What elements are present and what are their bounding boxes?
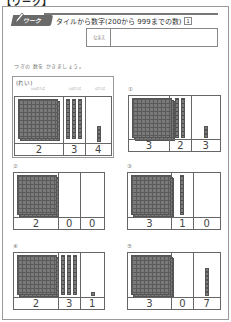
place-value-board: 231 [13, 252, 105, 310]
hundred-tile [18, 99, 58, 139]
ten-tile [181, 98, 185, 138]
one-tile [204, 126, 208, 130]
hundreds-digit[interactable]: 3 [129, 140, 170, 151]
ten-tile [175, 98, 179, 138]
problem-number: ① [128, 86, 133, 92]
hundreds-digit[interactable]: 2 [14, 218, 59, 229]
tile-columns [128, 253, 220, 298]
ones-column [81, 253, 104, 298]
answer-row: 307 [128, 297, 220, 309]
answer-row: 310 [128, 217, 220, 229]
place-value-board: 307 [127, 252, 221, 310]
tens-digit[interactable]: 1 [172, 218, 194, 229]
header-hundreds: 100のたば [13, 87, 63, 91]
header-tens: 10のたば [63, 87, 87, 91]
tens-digit[interactable]: 3 [59, 298, 81, 309]
one-tile [205, 280, 209, 284]
header-rule [44, 13, 218, 15]
title-text: タイルから数字(200から 999までの数) [56, 18, 181, 26]
ten-tile [72, 99, 76, 139]
ones-digit[interactable]: 4 [86, 144, 111, 155]
name-field[interactable]: なまえ [86, 28, 218, 47]
answer-row: 323 [129, 139, 220, 151]
work-badge-label: ワーク [23, 17, 42, 24]
tens-digit[interactable]: 2 [170, 140, 192, 151]
tens-column [172, 173, 194, 218]
tens-column [64, 97, 86, 144]
tens-digit[interactable]: 0 [172, 298, 194, 309]
ones-column [194, 253, 220, 298]
hundreds-digit[interactable]: 2 [15, 144, 64, 155]
hundreds-digit[interactable]: 2 [14, 298, 59, 309]
one-tile [205, 292, 209, 296]
tens-column [59, 173, 81, 218]
ten-tile [78, 99, 82, 139]
ten-tile [66, 99, 70, 139]
problem-number: ② [13, 163, 18, 169]
instruction-text: つぎの 数を かきましょう。 [14, 62, 84, 69]
ones-digit[interactable]: 1 [81, 298, 104, 309]
hundreds-digit[interactable]: 3 [128, 218, 172, 229]
one-tile [97, 126, 101, 130]
problem-number: ③ [127, 163, 132, 169]
ones-column [86, 97, 111, 144]
header-ones: 1のたば [87, 87, 113, 91]
hundred-tile [132, 98, 172, 138]
ones-column [81, 173, 104, 218]
tile-columns [14, 253, 104, 298]
place-value-board: 200 [13, 172, 105, 230]
answer-row: 234 [15, 143, 111, 155]
hundreds-column [128, 173, 172, 218]
place-value-board: 310 [127, 172, 221, 230]
one-tile [204, 130, 208, 134]
hundreds-digit[interactable]: 3 [128, 298, 172, 309]
ten-tile [67, 255, 71, 295]
ones-column [192, 96, 220, 140]
hundreds-column [15, 97, 64, 144]
ten-tile [180, 175, 184, 215]
tens-column [170, 96, 192, 140]
ten-tile [73, 255, 77, 295]
hundred-tile [131, 175, 171, 215]
one-tile [205, 288, 209, 292]
example-title: (れい) [16, 79, 32, 87]
hundred-tile [17, 255, 57, 295]
one-tile [97, 130, 101, 134]
ones-column [194, 173, 220, 218]
ones-digit[interactable]: 7 [194, 298, 220, 309]
example-column-headers: 100のたば 10のたば 1のたば [13, 87, 113, 91]
place-value-board: 234 [14, 96, 112, 156]
pencil-icon [14, 12, 24, 24]
sheet-number: 1 [184, 17, 191, 25]
answer-row: 231 [14, 297, 104, 309]
hundreds-column [128, 253, 172, 298]
ones-digit[interactable]: 0 [81, 218, 104, 229]
ones-digit[interactable]: 0 [194, 218, 220, 229]
worksheet-header: ワーク タイルから数字(200から 999までの数)1 [12, 12, 218, 26]
tile-columns [14, 173, 104, 218]
problem-number: ④ [13, 243, 18, 249]
tens-column [172, 253, 194, 298]
tens-digit[interactable]: 3 [64, 144, 86, 155]
tile-columns [129, 96, 220, 140]
worksheet-title: タイルから数字(200から 999までの数)1 [56, 16, 192, 26]
tens-digit[interactable]: 0 [59, 218, 81, 229]
one-tile [204, 134, 208, 138]
tens-column [59, 253, 81, 298]
name-input[interactable] [111, 29, 217, 46]
place-value-board: 323 [128, 95, 221, 152]
hundred-tile [17, 175, 57, 215]
hundred-tile [131, 255, 171, 295]
one-tile [91, 292, 95, 296]
one-tile [205, 268, 209, 272]
one-tile [205, 272, 209, 276]
one-tile [205, 276, 209, 280]
hundreds-column [129, 96, 170, 140]
one-tile [97, 138, 101, 142]
ones-digit[interactable]: 3 [192, 140, 220, 151]
one-tile [97, 134, 101, 138]
hundreds-column [14, 253, 59, 298]
ten-tile [61, 255, 65, 295]
problem-number: ⑤ [127, 243, 132, 249]
one-tile [205, 284, 209, 288]
